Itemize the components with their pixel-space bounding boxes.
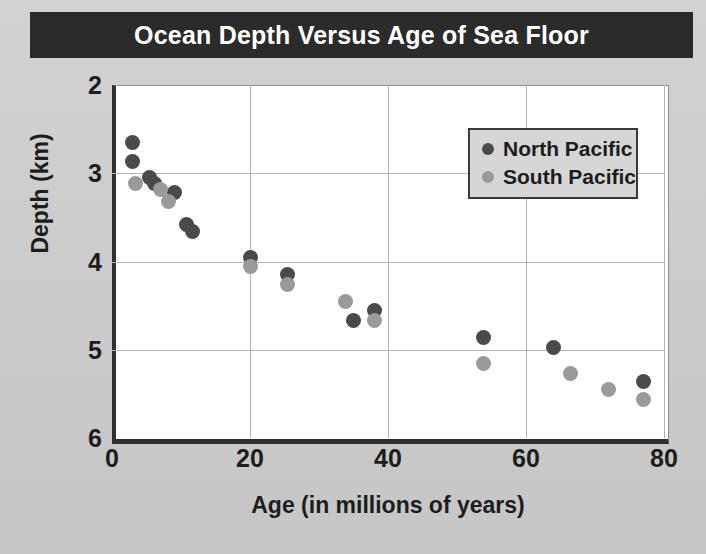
x-tick-label: 20: [220, 444, 280, 473]
data-point-south-pacific: [280, 277, 295, 292]
y-tick-label: 2: [68, 71, 102, 100]
x-axis-tick-labels: 020406080: [112, 444, 664, 478]
legend-item-north-pacific[interactable]: North Pacific: [470, 135, 636, 163]
data-point-north-pacific: [125, 154, 140, 169]
gridline-vertical: [664, 85, 665, 438]
data-point-north-pacific: [476, 330, 491, 345]
y-tick-label: 4: [68, 247, 102, 276]
gridline-horizontal: [112, 262, 664, 263]
chart-legend: North Pacific South Pacific: [468, 128, 638, 199]
legend-swatch-north-pacific-icon: [482, 143, 494, 155]
y-axis-title: Depth (km): [27, 94, 54, 294]
y-axis-tick-labels: 23456: [66, 85, 102, 438]
data-point-south-pacific: [243, 259, 258, 274]
data-point-north-pacific: [636, 374, 651, 389]
legend-item-south-pacific[interactable]: South Pacific: [470, 163, 636, 191]
chart-title-banner: Ocean Depth Versus Age of Sea Floor: [30, 12, 693, 58]
data-point-north-pacific: [346, 313, 361, 328]
x-tick-label: 80: [634, 444, 694, 473]
legend-swatch-south-pacific-icon: [482, 171, 494, 183]
x-tick-label: 60: [496, 444, 556, 473]
data-point-south-pacific: [161, 194, 176, 209]
data-point-south-pacific: [563, 366, 578, 381]
legend-label-south-pacific: South Pacific: [503, 165, 636, 189]
page-title: Ocean Depth Versus Age of Sea Floor: [134, 21, 589, 50]
x-axis-title: Age (in millions of years): [112, 492, 664, 519]
data-point-north-pacific: [125, 135, 140, 150]
data-point-south-pacific: [128, 176, 143, 191]
x-tick-label: 0: [82, 444, 142, 473]
gridline-horizontal: [112, 350, 664, 351]
legend-label-north-pacific: North Pacific: [503, 137, 633, 161]
x-tick-label: 40: [358, 444, 418, 473]
data-point-south-pacific: [367, 313, 382, 328]
data-point-south-pacific: [601, 382, 616, 397]
data-point-north-pacific: [546, 340, 561, 355]
y-tick-label: 3: [68, 159, 102, 188]
data-point-south-pacific: [338, 294, 353, 309]
data-point-south-pacific: [636, 392, 651, 407]
data-point-south-pacific: [476, 356, 491, 371]
data-point-north-pacific: [185, 224, 200, 239]
y-tick-label: 5: [68, 335, 102, 364]
